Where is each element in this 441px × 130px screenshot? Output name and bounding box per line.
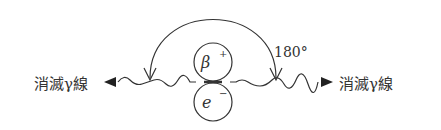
electron-charge: − xyxy=(219,88,227,99)
left-gamma-wave xyxy=(118,75,196,86)
positron-annihilation-diagram: 消滅γ線 消滅γ線 180° β + e − xyxy=(0,0,441,130)
left-arrowhead-icon xyxy=(104,77,116,87)
electron-symbol: e xyxy=(202,93,211,112)
positron-charge: + xyxy=(219,48,227,59)
right-gamma-label: 消滅γ線 xyxy=(339,72,393,93)
left-gamma-label: 消滅γ線 xyxy=(34,72,88,93)
angle-label: 180° xyxy=(274,44,308,60)
positron-symbol: β xyxy=(201,53,210,72)
diagram-graphics xyxy=(0,0,441,130)
right-arrowhead-icon xyxy=(321,77,333,87)
